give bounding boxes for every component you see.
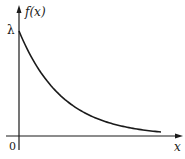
x-axis-arrow-icon [175,134,183,139]
plot-canvas [0,0,185,159]
origin-label: 0 [9,141,16,152]
y-axis-arrow-icon [17,5,22,13]
lambda-label: λ [7,24,15,36]
x-axis-label: x [174,141,181,153]
y-axis-label: f(x) [25,6,46,18]
decay-curve [19,31,161,132]
